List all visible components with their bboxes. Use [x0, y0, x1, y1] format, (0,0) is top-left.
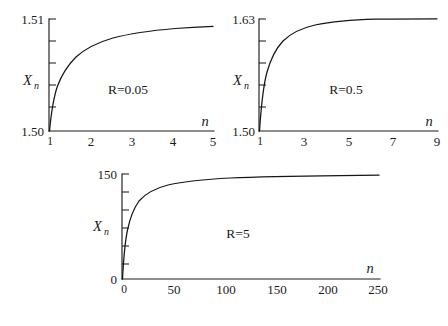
x-tick-label: 150 — [267, 282, 287, 297]
x-tick-label: 7 — [390, 134, 397, 149]
x-tick-label: 5 — [210, 134, 217, 149]
y-tick-label-bottom: 1.50 — [232, 124, 255, 139]
y-axis-label-base: X — [92, 218, 103, 234]
y-tick-label-bottom: 1.50 — [21, 124, 44, 139]
data-curve — [123, 175, 380, 279]
chart-panel-r-5: 150 0 X n 0 50 100 150 200 250 n R=5 — [60, 160, 400, 326]
chart-svg-r-5: 150 0 X n 0 50 100 150 200 250 n R=5 — [60, 160, 400, 326]
x-tick-label: 1 — [47, 135, 53, 147]
y-tick-label-top: 150 — [98, 167, 118, 182]
series-annotation: R=5 — [226, 226, 250, 241]
y-axis-label-subscript: n — [104, 226, 109, 237]
x-tick-label: 3 — [129, 134, 136, 149]
chart-panel-r-0-5: 1.63 1.50 X n 1 3 5 7 9 n R=0.5 — [224, 0, 448, 160]
figure-container: 1.51 1.50 X n 1 2 3 4 5 n R=0.05 — [0, 0, 448, 326]
x-axis-label: n — [425, 113, 432, 129]
x-axis-label: n — [366, 260, 373, 276]
y-axis-label-subscript: n — [34, 80, 39, 91]
y-axis-label-base: X — [232, 72, 243, 88]
chart-svg-r-0-05: 1.51 1.50 X n 1 2 3 4 5 n R=0.05 — [0, 0, 224, 160]
data-curve — [260, 19, 438, 131]
series-annotation: R=0.5 — [329, 82, 363, 97]
y-tick-label-top: 1.63 — [232, 12, 255, 27]
x-tick-label: 50 — [168, 282, 181, 297]
x-tick-label: 0 — [121, 283, 127, 295]
x-tick-label: 4 — [170, 134, 177, 149]
y-tick-label-bottom: 0 — [111, 272, 118, 287]
x-tick-label: 5 — [346, 134, 353, 149]
y-axis-label-base: X — [22, 72, 33, 88]
x-tick-label: 3 — [301, 134, 308, 149]
series-annotation: R=0.05 — [108, 82, 148, 97]
data-curve — [50, 26, 214, 131]
y-tick-label-top: 1.51 — [21, 12, 44, 27]
y-axis-label-subscript: n — [244, 80, 249, 91]
x-tick-label: 250 — [368, 282, 388, 297]
x-axis-label: n — [201, 113, 208, 129]
x-tick-label: 9 — [434, 134, 441, 149]
chart-panel-r-0-05: 1.51 1.50 X n 1 2 3 4 5 n R=0.05 — [0, 0, 224, 160]
x-tick-label: 100 — [216, 282, 236, 297]
x-tick-label: 200 — [318, 282, 338, 297]
x-tick-label: 2 — [88, 134, 95, 149]
x-tick-label: 1 — [257, 135, 263, 147]
chart-svg-r-0-5: 1.63 1.50 X n 1 3 5 7 9 n R=0.5 — [224, 0, 448, 160]
